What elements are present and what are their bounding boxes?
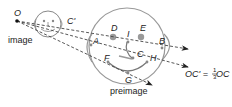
ratio-equation: OC' = 1 3 OC xyxy=(185,67,230,80)
label-I: I xyxy=(127,29,130,39)
point-C xyxy=(132,57,135,60)
label-C-prime: C' xyxy=(67,16,75,26)
label-H: H xyxy=(150,53,157,63)
svg-text:OC' =: OC' = xyxy=(185,69,208,79)
label-A: A xyxy=(92,36,99,46)
svg-text:OC: OC xyxy=(216,69,230,79)
right-eye-E xyxy=(138,34,144,40)
label-F: F xyxy=(104,53,110,63)
point-G xyxy=(127,72,130,75)
label-G: G xyxy=(125,75,132,85)
label-B: B xyxy=(159,36,165,46)
dilation-diagram: O image C' A D I E B C H F G preimage OC… xyxy=(0,0,232,107)
image-face xyxy=(34,11,62,37)
point-A xyxy=(90,44,93,47)
point-I xyxy=(127,41,130,44)
image-caption: image xyxy=(8,35,33,45)
label-E: E xyxy=(140,23,147,33)
preimage-caption: preimage xyxy=(110,86,148,96)
point-B xyxy=(161,47,164,50)
label-O: O xyxy=(14,8,21,18)
point-H xyxy=(146,61,149,64)
label-D: D xyxy=(111,23,118,33)
point-O xyxy=(15,19,19,23)
nose xyxy=(126,42,133,59)
label-C: C xyxy=(137,49,144,59)
